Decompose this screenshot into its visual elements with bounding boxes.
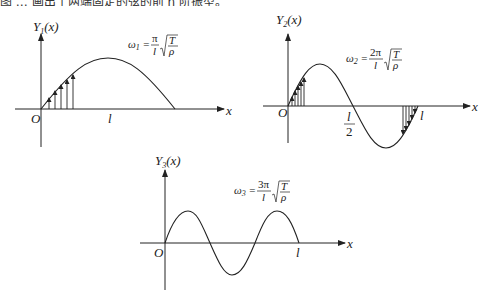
frequency-formula: ω1 = π l T ρ (128, 32, 178, 57)
x-axis-label: x (346, 236, 353, 251)
displacement-arrows (49, 75, 73, 109)
panel-mode-3: Y3(x) x O l ω3 = 3π l T ρ (140, 153, 353, 290)
length-label: l (296, 245, 300, 260)
half-length-label: l 2 (344, 109, 355, 139)
svg-text:ρ: ρ (280, 191, 286, 203)
svg-text:ω1 =: ω1 = (128, 38, 150, 52)
origin-label: O (154, 245, 164, 260)
svg-text:ρ: ρ (392, 59, 398, 71)
panel-mode-2: Y2(x) x O l 2 l ω2 = 2π l T ρ (263, 12, 478, 148)
svg-text:3π: 3π (258, 178, 270, 190)
displacement-arrows-left (292, 78, 304, 106)
frequency-formula: ω3 = 3π l T ρ (234, 178, 290, 203)
length-label: l (108, 111, 112, 126)
svg-text:2π: 2π (370, 46, 382, 58)
svg-text:π: π (152, 32, 158, 44)
x-axis-label: x (471, 99, 478, 114)
svg-text:l: l (347, 109, 351, 124)
svg-text:ω3 =: ω3 = (234, 184, 256, 198)
svg-text:ρ: ρ (168, 45, 174, 57)
x-axis-label: x (225, 103, 232, 118)
origin-label: O (278, 105, 288, 120)
panel-mode-1: Y1(x) x O l ω1 = π l T ρ (15, 19, 232, 147)
origin-label: O (31, 111, 41, 126)
length-label: l (420, 108, 424, 123)
svg-text:ω2 =: ω2 = (346, 52, 368, 66)
svg-text:l: l (262, 191, 265, 203)
mode-shapes-diagram: Y1(x) x O l ω1 = π l T ρ (0, 0, 492, 301)
svg-text:l: l (153, 45, 156, 57)
y-axis-label: Y2(x) (276, 12, 302, 29)
svg-text:2: 2 (346, 124, 353, 139)
frequency-formula: ω2 = 2π l T ρ (346, 46, 402, 71)
displacement-arrows-right (403, 106, 415, 134)
y-axis-label: Y3(x) (155, 153, 181, 170)
svg-text:l: l (374, 59, 377, 71)
y-axis-label: Y1(x) (33, 19, 59, 36)
